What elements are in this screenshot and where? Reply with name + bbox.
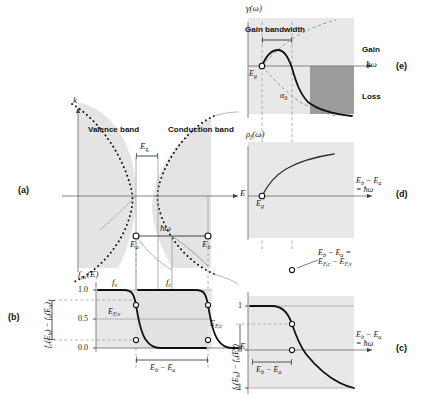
panel-b-y-axis-label: fv,c(E) — [78, 270, 99, 279]
gain-bandwidth-label: Gain bandwidth — [245, 26, 305, 34]
state-b-label: Eb — [202, 240, 211, 249]
conduction-band-label: Conduction band — [168, 126, 234, 134]
panel-b-inversion-side-label: fc(Eb) − fv(Ea) — [44, 302, 52, 348]
state-a-label: Ea — [130, 240, 139, 249]
fermi-function-v-label: fv — [112, 278, 117, 287]
panel-b-ytick-1: 1.0 — [78, 286, 88, 294]
fermi-function-c-label: fc — [166, 278, 171, 287]
figure-root: (a) k E Valence band Conduction band Eg … — [0, 0, 428, 418]
quasi-fermi-v-label: EF,v — [108, 308, 120, 316]
panel-e-x-axis-label: ħω — [366, 60, 377, 69]
center-annotation-graphics — [289, 260, 318, 273]
panel-a-x-axis-label: E — [240, 189, 246, 198]
panel-b-ytick-3: 0.0 — [78, 344, 88, 352]
panel-d-label: (d) — [396, 190, 408, 199]
panel-e-label: (e) — [396, 62, 407, 71]
gain-region-label: Gain — [362, 46, 380, 54]
quasi-fermi-c-label: EF,c — [210, 320, 222, 328]
valence-band-label: Valence band — [88, 126, 139, 134]
panel-d-graphics — [248, 142, 372, 240]
panel-b-label: (b) — [8, 313, 20, 322]
panel-b-energy-bracket-label: Eb − Ea — [150, 364, 175, 372]
band-gap-label: Eg — [140, 142, 149, 151]
panel-d-bandgap-label: Eg — [256, 200, 264, 208]
panel-c-y-axis-label: fc(Eb) − fv(Ea) — [232, 344, 240, 390]
loss-region-label: Loss — [362, 93, 381, 101]
panel-b-ytick-2: 0.5 — [78, 315, 88, 323]
photon-energy-label: ħω — [160, 224, 171, 233]
panel-c-energy-bracket-label: Eb − Ea — [256, 366, 281, 374]
absorption-coefficient-label: α0 — [280, 92, 287, 100]
panel-c-label: (c) — [396, 344, 407, 353]
panel-e-y-axis-label: γ(ω) — [246, 4, 262, 13]
fermi-separation-annotation: Eb − Ea = EF,c − EF,v — [318, 248, 352, 266]
panel-c-graphics — [236, 292, 372, 394]
panel-e-bandgap-label: Eg — [249, 70, 257, 78]
panel-d-x-axis-label: Eb − Ea = ħω — [356, 176, 381, 194]
figure-vector-layer — [0, 0, 428, 418]
panel-d-y-axis-label: ρj(ω) — [246, 130, 264, 139]
panel-c-x-axis-label: Eb − Ea = ħω — [356, 330, 381, 348]
panel-a-y-axis-label: k — [73, 96, 77, 105]
panel-a-label: (a) — [18, 186, 29, 195]
panel-c-ytick-1: 1 — [238, 302, 242, 310]
